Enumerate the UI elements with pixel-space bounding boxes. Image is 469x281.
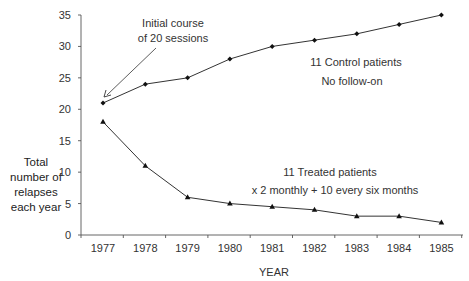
- x-tick-label: 1980: [218, 242, 242, 254]
- y-tick-label: 0: [65, 229, 71, 241]
- y-tick-label: 30: [59, 40, 71, 52]
- treated-sublabel: x 2 monthly + 10 every six months: [252, 184, 419, 196]
- diamond-marker-icon: [270, 44, 275, 49]
- x-tick-label: 1978: [133, 242, 157, 254]
- x-tick-label: 1982: [302, 242, 326, 254]
- treated-label: 11 Treated patients: [283, 166, 377, 178]
- diamond-marker-icon: [143, 82, 148, 87]
- annotations: Initial course of 20 sessions 11 Control…: [104, 17, 419, 196]
- triangle-marker-icon: [185, 194, 191, 199]
- diamond-marker-icon: [185, 75, 190, 80]
- diamond-marker-icon: [439, 13, 444, 18]
- diamond-marker-icon: [101, 101, 106, 106]
- diamond-marker-icon: [227, 57, 232, 62]
- y-tick-label: 15: [59, 135, 71, 147]
- x-tick-label: 1979: [175, 242, 199, 254]
- control-label: 11 Control patients: [310, 56, 402, 68]
- series-treated: [100, 119, 444, 225]
- triangle-marker-icon: [100, 119, 106, 124]
- x-tick-label: 1977: [91, 242, 115, 254]
- y-tick-label: 10: [59, 166, 71, 178]
- x-tick-label: 1983: [345, 242, 369, 254]
- x-tick-label: 1984: [387, 242, 411, 254]
- y-tick-label: 25: [59, 72, 71, 84]
- initial-course-annotation: Initial course: [142, 17, 204, 29]
- y-tick-label: 35: [59, 9, 71, 21]
- x-axis-title: YEAR: [259, 266, 289, 278]
- line-chart: 0510152025303519771978197919801981198219…: [0, 0, 469, 281]
- y-tick-label: 20: [59, 103, 71, 115]
- initial-course-annotation: of 20 sessions: [138, 32, 209, 44]
- arrow-head-icon: [104, 90, 111, 97]
- diamond-marker-icon: [397, 22, 402, 27]
- x-tick-label: 1981: [260, 242, 284, 254]
- control-sublabel: No follow-on: [321, 75, 382, 87]
- y-tick-label: 5: [65, 198, 71, 210]
- diamond-marker-icon: [312, 38, 317, 43]
- annotation-arrow: [107, 48, 156, 95]
- axes: 0510152025303519771978197919801981198219…: [59, 9, 463, 254]
- diamond-marker-icon: [354, 31, 359, 36]
- x-tick-label: 1985: [429, 242, 453, 254]
